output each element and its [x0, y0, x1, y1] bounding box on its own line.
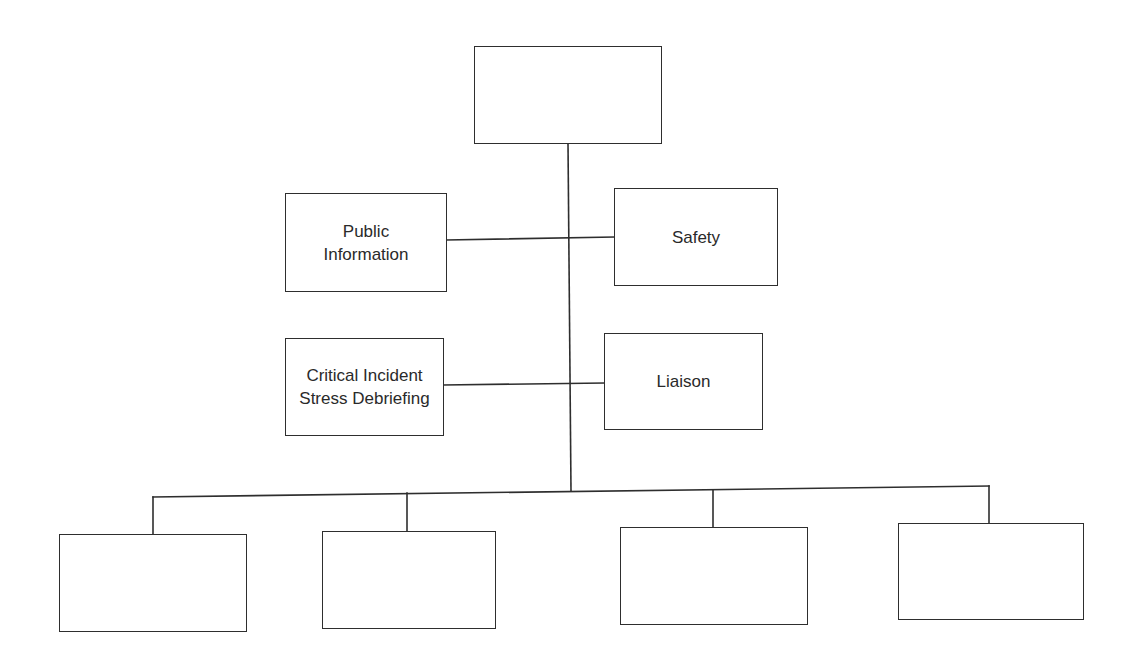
staff-row-1-connector: [446, 237, 614, 240]
section-box-4: [898, 523, 1084, 620]
section-box-1: [59, 534, 247, 632]
public-information-label: Public Information: [323, 220, 408, 266]
safety-box: Safety: [614, 188, 778, 286]
critical-incident-stress-debriefing-label: Critical Incident Stress Debriefing: [299, 364, 429, 410]
trunk-line: [568, 143, 571, 491]
org-chart: Public Information Safety Critical Incid…: [0, 0, 1137, 654]
safety-label: Safety: [672, 226, 720, 249]
top-box: [474, 46, 662, 144]
section-box-3: [620, 527, 808, 625]
liaison-box: Liaison: [604, 333, 763, 430]
critical-incident-stress-debriefing-box: Critical Incident Stress Debriefing: [285, 338, 444, 436]
public-information-box: Public Information: [285, 193, 447, 292]
liaison-label: Liaison: [657, 370, 711, 393]
section-box-2: [322, 531, 496, 629]
staff-row-2-connector: [443, 383, 604, 385]
